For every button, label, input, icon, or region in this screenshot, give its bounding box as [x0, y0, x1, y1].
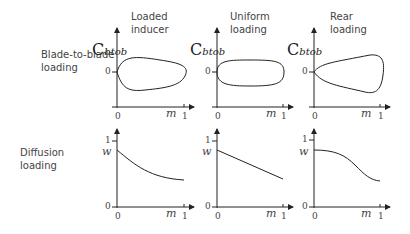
x-axis-label: m [266, 107, 276, 120]
y-label-sub: btob [299, 46, 322, 57]
tick-zero: 0 [215, 210, 221, 223]
x-axis-label: m [166, 107, 176, 120]
diagram-canvas [0, 0, 410, 234]
tick-zero: 0 [115, 110, 121, 123]
y-axis-label-w: w [299, 145, 308, 158]
tick-one: 1 [182, 210, 188, 223]
y-axis-label-cbtob: Cbtob [287, 43, 322, 58]
y-label-sub: btob [104, 46, 127, 57]
tick-one: 1 [182, 110, 188, 123]
y-axis-label-cbtob: Cbtob [92, 43, 127, 58]
diffusion-curve-uniform [217, 150, 283, 179]
diffusion-curve-rear [314, 150, 380, 181]
x-axis-label: m [166, 207, 176, 220]
tick-zero: 0 [105, 200, 111, 213]
x-axis-label: m [266, 207, 276, 220]
tick-one: 1 [281, 110, 287, 123]
tick-zero: 0 [302, 65, 308, 78]
tick-zero: 0 [205, 65, 211, 78]
tick-zero: 0 [215, 110, 221, 123]
y-axis-label-cbtob: Cbtob [190, 43, 225, 58]
tick-zero: 0 [115, 210, 121, 223]
tick-one: 1 [378, 210, 384, 223]
y-label-main: C [287, 40, 299, 59]
x-axis-label: m [361, 207, 371, 220]
y-label-sub: btob [202, 46, 225, 57]
y-axis-label-w: w [202, 145, 211, 158]
loading-curve-uniform [217, 60, 284, 86]
loading-curve-rear [314, 55, 384, 93]
y-axis-label-w: w [102, 145, 111, 158]
y-label-main: C [190, 40, 202, 59]
tick-zero: 0 [302, 200, 308, 213]
y-label-main: C [92, 40, 104, 59]
loading-curve-loaded-inducer [117, 58, 186, 91]
tick-one: 1 [281, 210, 287, 223]
diffusion-curve-loaded-inducer [117, 150, 184, 180]
tick-zero: 0 [312, 210, 318, 223]
tick-zero: 0 [312, 110, 318, 123]
tick-zero: 0 [105, 65, 111, 78]
tick-zero: 0 [205, 200, 211, 213]
tick-one: 1 [378, 110, 384, 123]
x-axis-label: m [361, 107, 371, 120]
